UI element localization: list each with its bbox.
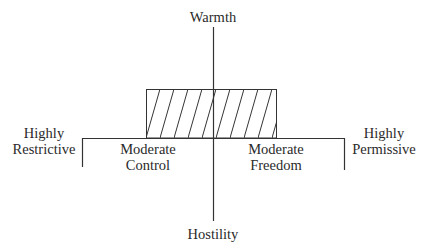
highly-restrictive-label: Highly Restrictive	[8, 125, 80, 157]
moderate-control-label: Moderate Control	[108, 141, 188, 173]
moderate-freedom-label: Moderate Freedom	[236, 141, 316, 173]
hostility-label: Hostility	[178, 226, 248, 242]
parenting-style-diagram	[0, 0, 428, 248]
hatched-optimal-region	[147, 90, 277, 139]
warmth-label: Warmth	[183, 9, 243, 25]
highly-permissive-label: Highly Permissive	[345, 125, 423, 157]
